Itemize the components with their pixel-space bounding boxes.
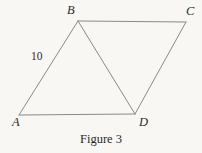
vertex-label-d: D [139, 116, 148, 129]
figure-caption: Figure 3 [0, 133, 202, 146]
edge-BC [78, 21, 186, 22]
vertex-label-b: B [67, 4, 75, 17]
edge-DA [19, 114, 135, 115]
edge-CD [135, 22, 186, 114]
vertex-label-c: C [186, 5, 194, 18]
side-length-label-ab: 10 [31, 51, 43, 63]
edge-AB [19, 21, 78, 115]
vertex-label-a: A [12, 116, 20, 129]
geometry-figure: A B C D 10 Figure 3 [0, 0, 202, 153]
diagonal-BD [78, 21, 135, 114]
figure-drawing-canvas [0, 0, 202, 153]
